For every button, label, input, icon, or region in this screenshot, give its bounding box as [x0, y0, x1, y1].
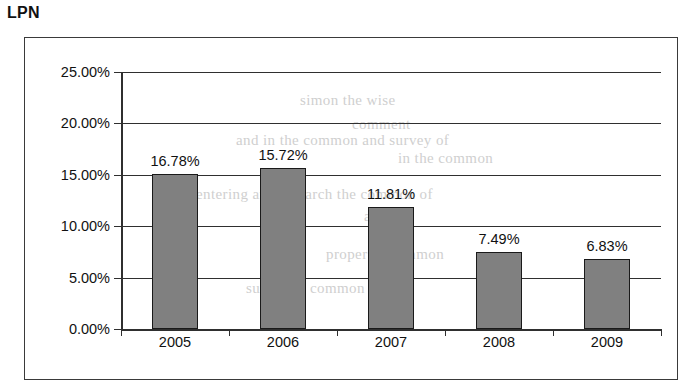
bar-2005[interactable] — [152, 174, 198, 329]
bar-slot-2009: 6.83%2009 — [553, 72, 661, 329]
y-axis-tick — [114, 278, 121, 279]
bar-slot-2008: 7.49%2008 — [445, 72, 553, 329]
bar-value-label-2008: 7.49% — [478, 231, 519, 247]
y-axis-label: 20.00% — [61, 115, 110, 131]
gridline-0 — [121, 329, 661, 331]
y-axis-label: 10.00% — [61, 218, 110, 234]
y-axis-tick — [114, 175, 121, 176]
x-axis-tick — [661, 329, 662, 336]
plot-area: 25.00%20.00%15.00%10.00%5.00%0.00% 16.78… — [121, 72, 661, 329]
x-axis-label-2006: 2006 — [267, 334, 299, 350]
bar-value-label-2007: 11.81% — [367, 186, 415, 202]
x-axis-label-2009: 2009 — [591, 334, 623, 350]
y-axis-label: 5.00% — [69, 270, 110, 286]
bar-slot-2007: 11.81%2007 — [337, 72, 445, 329]
y-axis-tick — [114, 329, 121, 330]
bar-2006[interactable] — [260, 168, 306, 329]
bar-2007[interactable] — [368, 207, 414, 329]
y-axis-label: 25.00% — [61, 64, 110, 80]
y-axis-tick — [114, 123, 121, 124]
chart-frame: 25.00%20.00%15.00%10.00%5.00%0.00% 16.78… — [24, 37, 678, 380]
x-axis-label-2008: 2008 — [483, 334, 515, 350]
page-title: LPN — [7, 4, 40, 22]
bar-value-label-2005: 16.78% — [150, 153, 199, 169]
bars-group: 16.78%200515.72%200611.81%20077.49%20086… — [121, 72, 661, 329]
y-axis-label: 0.00% — [69, 321, 110, 337]
y-axis-label: 15.00% — [61, 167, 110, 183]
bar-slot-2006: 15.72%2006 — [229, 72, 337, 329]
y-axis-tick — [114, 226, 121, 227]
y-axis-tick — [114, 72, 121, 73]
x-axis-tick — [229, 329, 230, 336]
x-axis-label-2005: 2005 — [159, 334, 191, 350]
x-axis-tick — [445, 329, 446, 336]
bar-2009[interactable] — [584, 259, 630, 329]
x-axis-label-2007: 2007 — [375, 334, 407, 350]
x-axis-tick — [553, 329, 554, 336]
x-axis-tick — [337, 329, 338, 336]
x-axis-tick — [121, 329, 122, 336]
bar-value-label-2009: 6.83% — [586, 238, 627, 254]
bar-slot-2005: 16.78%2005 — [121, 72, 229, 329]
bar-2008[interactable] — [476, 252, 522, 329]
bar-value-label-2006: 15.72% — [258, 147, 307, 163]
